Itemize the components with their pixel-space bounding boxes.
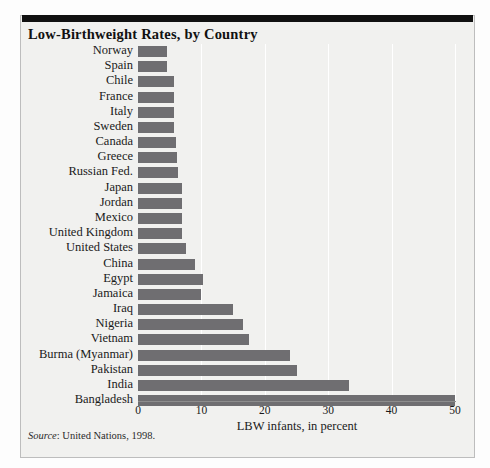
chart-figure: Low-Birthweight Rates, by Country Norway…	[0, 0, 490, 468]
y-axis-label: China	[103, 256, 133, 271]
bar	[138, 46, 167, 57]
x-axis-title: LBW infants, in percent	[138, 419, 456, 434]
bar-row: United Kingdom	[138, 226, 455, 241]
bar-row: Norway	[138, 44, 455, 59]
bar	[138, 92, 174, 103]
x-tick-label: 10	[196, 404, 208, 416]
bar	[138, 380, 349, 391]
bar	[138, 274, 203, 285]
bar	[138, 228, 182, 239]
x-tick-label: 40	[386, 404, 398, 416]
bar	[138, 107, 174, 118]
bar-row: Vietnam	[138, 332, 455, 347]
title-rule	[22, 15, 473, 22]
bar	[138, 122, 174, 133]
bar	[138, 61, 167, 72]
bar	[138, 76, 174, 87]
bar	[138, 334, 249, 345]
bar	[138, 304, 233, 315]
y-axis-label: India	[107, 377, 133, 392]
bar-row: Japan	[138, 181, 455, 196]
x-tick-label: 20	[259, 404, 271, 416]
bar-row: Spain	[138, 59, 455, 74]
bar-row: India	[138, 378, 455, 393]
bar	[138, 198, 182, 209]
bar-row: Iraq	[138, 302, 455, 317]
y-axis-label: Japan	[105, 180, 133, 195]
source-note: Source: United Nations, 1998.	[28, 430, 155, 441]
y-axis-label: Sweden	[93, 119, 133, 134]
y-axis-label: Norway	[93, 43, 133, 58]
bar-row: Sweden	[138, 120, 455, 135]
y-axis-label: Italy	[110, 104, 133, 119]
y-axis-label: Iraq	[113, 301, 133, 316]
bar	[138, 319, 243, 330]
y-axis-label: United States	[66, 240, 133, 255]
y-axis-label: Mexico	[95, 210, 133, 225]
bar	[138, 289, 201, 300]
source-text: : United Nations, 1998.	[57, 430, 155, 441]
bar	[138, 259, 195, 270]
bar-row: China	[138, 257, 455, 272]
y-axis-label: Bangladesh	[75, 392, 133, 407]
bar	[138, 365, 297, 376]
y-axis-label: Burma (Myanmar)	[39, 347, 133, 362]
x-axis-line	[138, 401, 456, 402]
y-axis-label: France	[99, 89, 133, 104]
bar-row: Mexico	[138, 211, 455, 226]
y-axis-label: Pakistan	[91, 362, 133, 377]
bar-row: Nigeria	[138, 317, 455, 332]
bar-row: Egypt	[138, 272, 455, 287]
bar-row: Greece	[138, 150, 455, 165]
bar-row: Russian Fed.	[138, 165, 455, 180]
bar	[138, 152, 177, 163]
bar-row: Chile	[138, 74, 455, 89]
bar	[138, 183, 182, 194]
bar-row: Jordan	[138, 196, 455, 211]
bar-row: Canada	[138, 135, 455, 150]
bar	[138, 350, 290, 361]
y-axis-label: Greece	[98, 149, 133, 164]
x-tick-label: 50	[449, 404, 461, 416]
bar-row: United States	[138, 241, 455, 256]
bar-row: Italy	[138, 105, 455, 120]
bar	[138, 213, 182, 224]
y-axis-label: Canada	[96, 134, 133, 149]
y-axis-label: Egypt	[103, 271, 133, 286]
y-axis-label: Spain	[105, 58, 133, 73]
x-tick-label: 0	[135, 404, 141, 416]
y-axis-label: Jordan	[100, 195, 133, 210]
source-label: Source	[28, 430, 57, 441]
plot-area: NorwaySpainChileFranceItalySwedenCanadaG…	[138, 44, 455, 401]
gridline	[455, 44, 456, 401]
x-tick-label: 30	[322, 404, 334, 416]
chart-title: Low-Birthweight Rates, by Country	[28, 26, 258, 43]
bar	[138, 167, 178, 178]
y-axis-label: Jamaica	[93, 286, 133, 301]
bar-row: Jamaica	[138, 287, 455, 302]
y-axis-label: Nigeria	[96, 316, 133, 331]
bar-row: Pakistan	[138, 363, 455, 378]
bar	[138, 243, 186, 254]
y-axis-label: United Kingdom	[49, 225, 133, 240]
bar-row: France	[138, 90, 455, 105]
y-axis-label: Chile	[106, 73, 133, 88]
bar	[138, 137, 176, 148]
y-axis-label: Russian Fed.	[68, 164, 133, 179]
y-axis-label: Vietnam	[91, 331, 133, 346]
bar-row: Burma (Myanmar)	[138, 348, 455, 363]
